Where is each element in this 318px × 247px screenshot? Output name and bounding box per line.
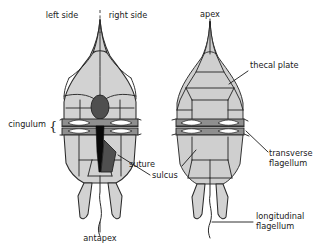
label-layer: left side right side apex thecal plate c… [8, 9, 312, 243]
left-apical-pore-plate [91, 95, 109, 119]
label-transverse-flagellum-2: flagellum [269, 158, 307, 168]
left-antapical-horn-left [78, 183, 92, 219]
label-right-side: right side [109, 10, 148, 20]
cingulum-brace: { [49, 119, 57, 134]
label-apex: apex [200, 9, 220, 19]
label-longitudinal-flagellum-1: longitudinal [256, 211, 304, 221]
label-antapex: antapex [83, 233, 117, 243]
leader-transverse-flagellum [246, 131, 268, 152]
right-organism [172, 21, 249, 238]
label-longitudinal-flagellum-2: flagellum [256, 221, 294, 231]
label-suture: suture [129, 159, 155, 169]
label-left-side: left side [46, 10, 79, 20]
left-organism [60, 19, 141, 236]
dinoflagellate-diagram: left side right side apex thecal plate c… [0, 0, 318, 247]
right-cingulum [172, 119, 249, 136]
diagram-canvas: left side right side apex thecal plate c… [0, 0, 318, 247]
right-antapical-horn-left [192, 184, 205, 219]
right-antapical-horn-right [216, 184, 228, 219]
left-antapical-horn-right [108, 183, 122, 219]
label-transverse-flagellum-1: transverse [269, 148, 313, 158]
label-cingulum: cingulum [8, 119, 46, 129]
label-sulcus: sulcus [152, 170, 178, 180]
right-longitudinal-flagellum [208, 178, 211, 238]
label-thecal-plate: thecal plate [250, 60, 299, 70]
